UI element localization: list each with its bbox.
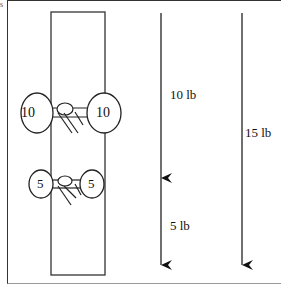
hand-grip — [57, 103, 73, 115]
force-label-5lb: 5 lb — [170, 218, 190, 234]
force-label-10lb: 10 lb — [170, 87, 196, 103]
plate-label-left-bottom: 5 — [37, 176, 44, 192]
hand-grip — [58, 176, 72, 186]
plate-label-right-bottom: 5 — [88, 176, 95, 192]
plate-label-right-top: 10 — [96, 105, 110, 121]
force-label-15lb: 15 lb — [245, 125, 271, 141]
diagram-canvas — [0, 0, 281, 287]
plate-label-left-top: 10 — [21, 105, 35, 121]
upright-rack — [51, 12, 105, 275]
